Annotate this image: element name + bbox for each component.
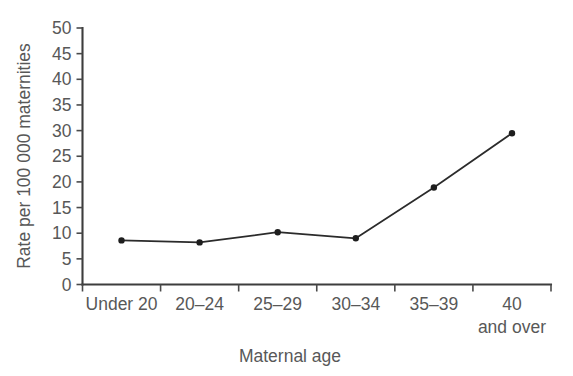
y-tick-label: 25 [52, 146, 71, 166]
y-axis-tick-labels: 05101520253035404550 [52, 18, 72, 295]
line-chart-canvas: 05101520253035404550 Under 2020–2425–293… [0, 0, 573, 376]
series-markers [118, 130, 515, 246]
x-category-label: 35–39 [410, 294, 459, 314]
y-tick-label: 5 [62, 249, 72, 269]
y-tick-label: 10 [52, 223, 72, 243]
series-data-point [196, 239, 202, 245]
x-category-label: 20–24 [175, 294, 224, 314]
x-category-label: 40 [502, 294, 522, 314]
chart-figure: 05101520253035404550 Under 2020–2425–293… [0, 0, 573, 376]
series-data-point [275, 229, 281, 235]
y-tick-label: 45 [52, 44, 71, 64]
y-tick-label: 35 [52, 95, 71, 115]
series-data-point [353, 235, 359, 241]
y-tick-label: 0 [62, 275, 72, 295]
y-axis-title: Rate per 100 000 maternities [14, 43, 34, 269]
x-category-label: Under 20 [86, 294, 158, 314]
x-axis-category-labels: Under 2020–2425–2930–3435–3940and over [86, 294, 547, 337]
y-tick-label: 30 [52, 121, 72, 141]
y-tick-label: 40 [52, 69, 72, 89]
x-category-label: 30–34 [331, 294, 380, 314]
y-tick-label: 20 [52, 172, 72, 192]
x-category-label: and over [478, 317, 546, 337]
axes-group [83, 28, 552, 285]
series-polyline [122, 133, 513, 242]
x-category-label: 25–29 [253, 294, 302, 314]
series-data-point [118, 237, 124, 243]
y-tick-label: 50 [52, 18, 72, 38]
series-data-point [509, 130, 515, 136]
x-axis-title: Maternal age [239, 346, 341, 366]
series-data-point [431, 184, 437, 190]
y-tick-label: 15 [52, 198, 71, 218]
